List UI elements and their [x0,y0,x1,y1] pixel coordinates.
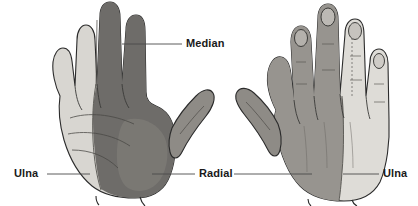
label-median: Median [186,38,225,49]
label-ulna-right: Ulna [383,168,407,179]
nail-middle [321,8,335,26]
nail-little [374,54,385,69]
label-radial: Radial [199,168,233,179]
nail-ring [349,23,362,40]
label-ulna-left: Ulna [14,168,38,179]
nail-index [295,30,308,47]
